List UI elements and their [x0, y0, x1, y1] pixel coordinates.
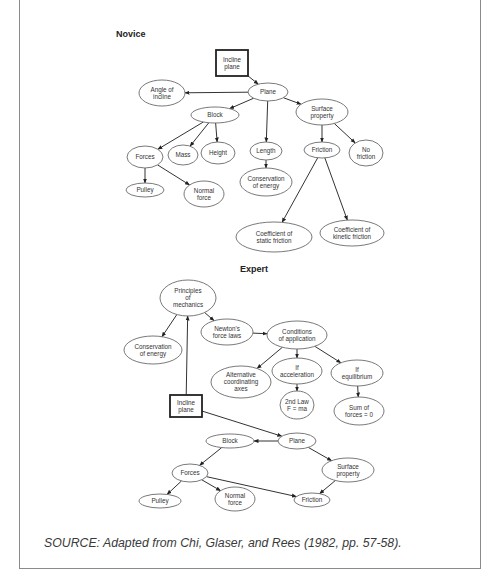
node-label: Normal: [194, 187, 214, 194]
node-label: Coefficient of: [256, 230, 293, 237]
node-label: Length: [256, 147, 276, 155]
node-angle: Angle ofincline: [139, 80, 185, 106]
node-label: acceleration: [280, 371, 314, 378]
edge-forces-to-normal: [202, 480, 221, 491]
node-label: axes: [234, 385, 247, 392]
node-label: Plane: [289, 437, 306, 444]
source-caption: SOURCE: Adapted from Chi, Glaser, and Re…: [44, 536, 402, 550]
node-label: Plane: [260, 88, 277, 95]
node-block: Block: [206, 434, 254, 448]
edge-surface-to-nofriction: [334, 123, 355, 142]
node-label: Block: [207, 111, 223, 118]
node-label: F = ma: [287, 405, 307, 412]
node-mass: Mass: [168, 145, 198, 165]
node-label: Alternative: [226, 371, 256, 378]
edge-plane-to-surface: [308, 447, 331, 460]
node-label: of energy: [140, 350, 167, 358]
node-pulley: Pulley: [139, 494, 181, 508]
edge-principles-to-conservation: [162, 315, 177, 337]
node-newton: Newton'sforce laws: [201, 319, 253, 345]
node-height: Height: [201, 142, 235, 164]
edge-block-to-mass: [190, 123, 209, 146]
node-label: Friction: [302, 496, 323, 503]
node-conservation: Conservationof energy: [124, 336, 182, 364]
node-surface: Surfaceproperty: [296, 99, 348, 125]
node-normal: Normalforce: [184, 181, 224, 207]
edge-principles-to-newton: [205, 312, 214, 320]
node-label: If: [295, 364, 299, 371]
node-label: Forces: [135, 153, 154, 160]
node-label: force laws: [213, 332, 241, 339]
edge-surface-to-friction: [320, 480, 336, 493]
node-ifeq: Ifequilibrium: [331, 360, 383, 386]
node-forces: Forces: [172, 464, 208, 482]
node-label: kinetic friction: [333, 233, 372, 240]
node-label: of energy: [253, 182, 280, 190]
edge-incline-to-principles: [186, 316, 187, 395]
node-label: Friction: [312, 146, 333, 153]
expert-map: PrinciplesofmechanicsNewton'sforce lawsC…: [124, 280, 384, 511]
edge-forces-to-pulley: [167, 481, 181, 494]
node-label: Conservation: [134, 343, 172, 350]
node-label: force: [228, 499, 242, 506]
node-nofriction: Nofriction: [349, 140, 383, 166]
node-label: Surface: [337, 463, 359, 470]
node-conservation: Conservationof energy: [240, 168, 292, 196]
node-sumforces: Sum offorces = 0: [334, 397, 384, 425]
node-label: Mass: [175, 151, 190, 158]
node-forces: Forces: [127, 146, 163, 168]
node-friction: Friction: [304, 142, 340, 158]
node-normal: Normalforce: [215, 487, 255, 511]
node-principles: Principlesofmechanics: [160, 280, 216, 316]
node-length: Length: [250, 142, 282, 160]
node-label: plane: [224, 63, 240, 71]
node-label: Coefficient of: [334, 226, 371, 233]
edge-plane-to-length: [266, 101, 267, 142]
node-plane: Plane: [248, 83, 288, 101]
node-label: Newton's: [214, 325, 240, 332]
node-label: If: [355, 366, 359, 373]
node-incline: Inclineplane: [170, 395, 202, 417]
node-label: Normal: [225, 492, 245, 499]
node-label: incline: [153, 93, 171, 100]
node-label: of application: [278, 335, 316, 343]
node-label: plane: [178, 406, 194, 414]
edge-plane-to-surface: [283, 98, 301, 105]
node-label: Block: [222, 437, 238, 444]
node-label: Sum of: [349, 404, 369, 411]
node-ifacc: Ifacceleration: [272, 358, 322, 384]
node-kinetic: Coefficient ofkinetic friction: [320, 220, 384, 246]
node-label: equilibrium: [342, 373, 372, 381]
edge-incline-to-plane: [248, 76, 258, 84]
node-label: Conservation: [247, 175, 285, 182]
edge-friction-to-kinetic: [325, 158, 347, 220]
node-secondlaw: 2nd LawF = ma: [280, 391, 314, 419]
node-alternative: Alternativecoordinatingaxes: [211, 366, 271, 398]
edge-forces-to-normal: [158, 165, 190, 185]
node-friction: Friction: [294, 493, 330, 507]
node-label: Surface: [311, 105, 333, 112]
node-label: Incline: [177, 399, 196, 406]
node-label: Height: [209, 149, 227, 157]
node-label: property: [310, 112, 334, 120]
node-incline: Inclineplane: [216, 50, 248, 76]
node-label: Pulley: [151, 497, 169, 505]
edge-newton-to-conditions: [253, 333, 267, 334]
node-surface: Surfaceproperty: [322, 458, 374, 482]
node-label: static friction: [257, 237, 292, 244]
node-label: friction: [357, 153, 376, 160]
node-plane: Plane: [278, 433, 316, 449]
edge-conditions-to-ifeq: [315, 346, 341, 363]
edge-block-to-height: [216, 123, 218, 142]
node-label: force: [197, 194, 211, 201]
node-label: mechanics: [173, 301, 203, 308]
edge-block-to-forces: [200, 448, 222, 466]
node-block: Block: [191, 107, 239, 123]
node-label: Pulley: [136, 186, 154, 194]
edge-plane-to-angle: [185, 92, 248, 93]
novice-map: InclineplanePlaneAngle ofinclineBlockSur…: [126, 50, 384, 252]
edge-incline-to-plane: [202, 411, 282, 436]
concept-maps: InclineplanePlaneAngle ofinclineBlockSur…: [0, 0, 492, 584]
node-label: Forces: [180, 469, 199, 476]
edge-plane-to-block: [230, 98, 254, 108]
